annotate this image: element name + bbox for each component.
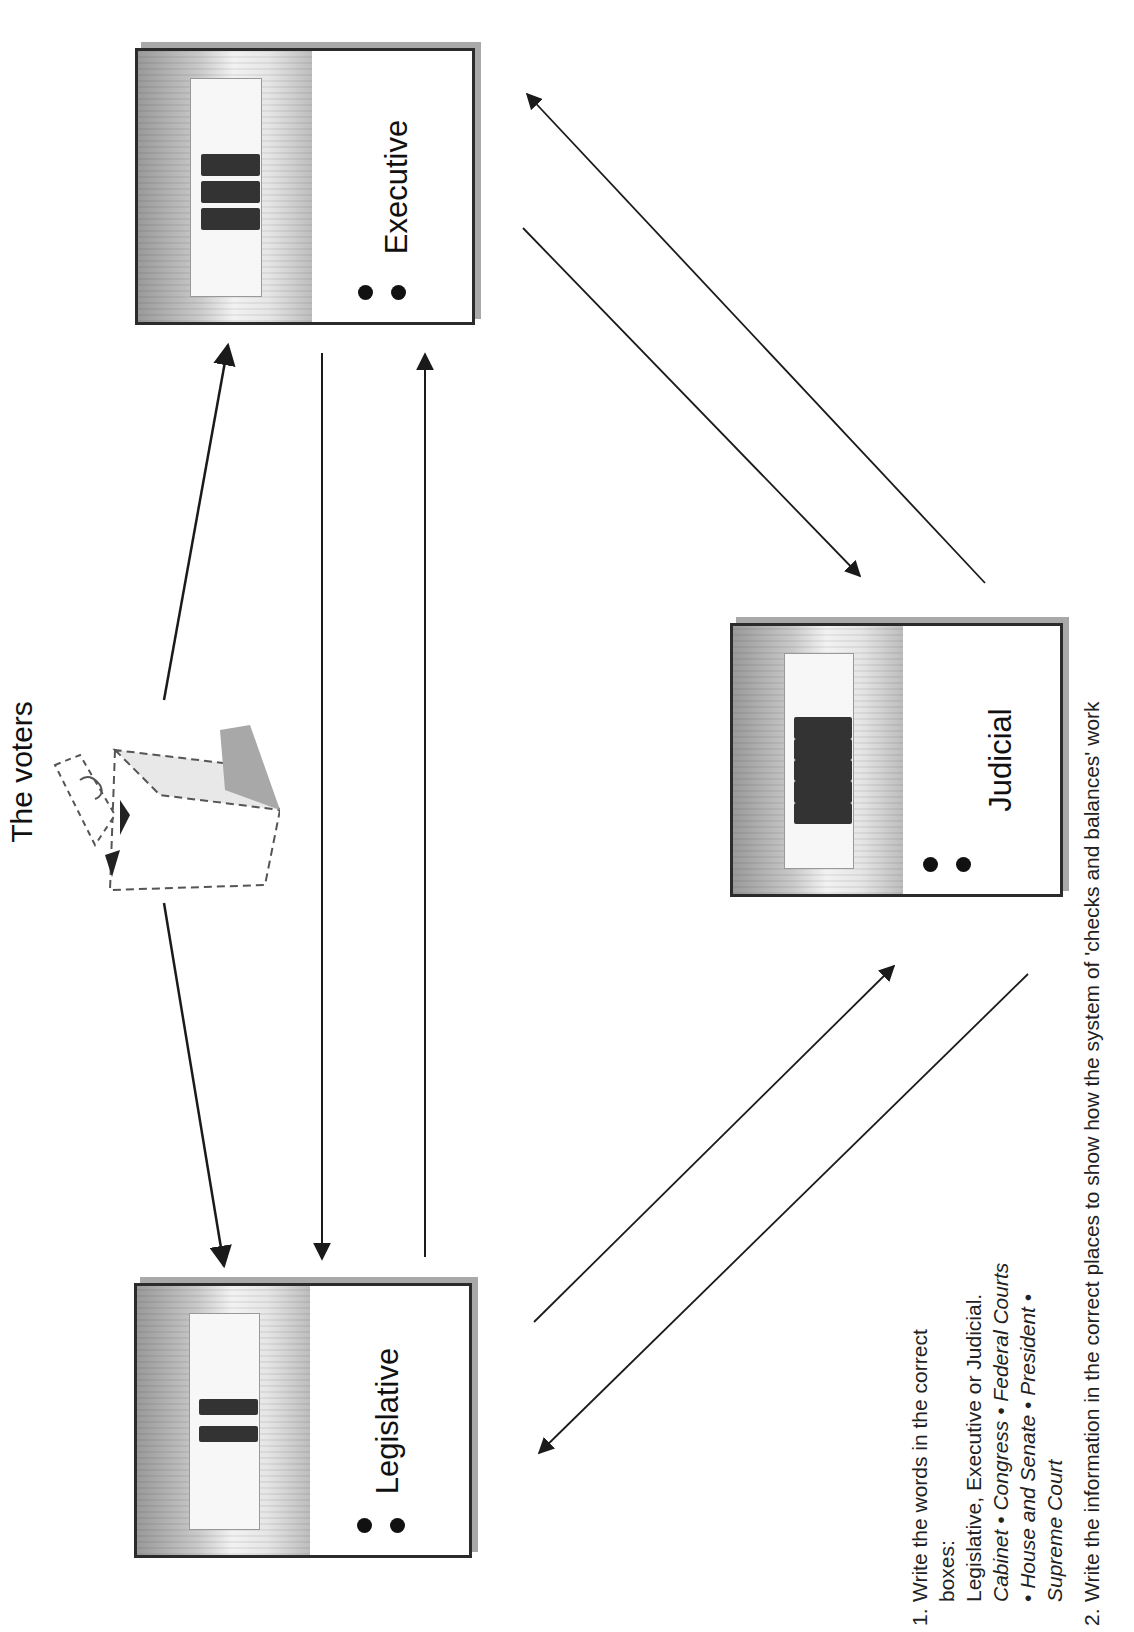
arrow-legislative-to-judicial	[534, 966, 894, 1322]
arrow-voters-to-executive	[164, 345, 228, 700]
branch-label-legislative: Legislative	[370, 1347, 406, 1493]
bullet-icon	[390, 1518, 405, 1533]
arrow-voters-to-legislative	[164, 903, 224, 1266]
capitol-building-image	[137, 1286, 310, 1555]
arrow-judicial-to-executive	[527, 94, 985, 583]
white-house-image	[138, 51, 312, 322]
instruction-number: 1.	[906, 1602, 1068, 1626]
instruction-line: Legislative, Executive or Judicial.	[960, 1262, 987, 1602]
bullet-icon	[357, 1518, 372, 1533]
bullet-icon	[358, 285, 373, 300]
supreme-court-image	[733, 626, 903, 894]
answer-bullets	[358, 285, 406, 300]
branch-label-executive: Executive	[379, 119, 415, 253]
term: House and Senate	[1016, 1415, 1039, 1589]
branch-box-legislative[interactable]: Legislative	[134, 1283, 472, 1558]
term: Supreme Court	[1043, 1460, 1066, 1602]
instruction-line: Write the information in the correct pla…	[1078, 602, 1105, 1602]
instructions: 1. Write the words in the correct boxes:…	[906, 526, 1115, 1626]
term: Cabinet	[989, 1530, 1012, 1602]
term: Congress	[989, 1421, 1012, 1511]
instruction-number: 2.	[1078, 1602, 1105, 1626]
answer-bullets	[357, 1518, 405, 1533]
instruction-2: 2. Write the information in the correct …	[1078, 526, 1105, 1626]
diagram-title: The voters	[5, 701, 39, 843]
arrow-executive-to-judicial	[523, 228, 860, 576]
bullet-icon	[391, 285, 406, 300]
term-list: Cabinet • Congress • Federal Courts • Ho…	[987, 1262, 1068, 1602]
instruction-1: 1. Write the words in the correct boxes:…	[906, 526, 1068, 1626]
term: President	[1016, 1307, 1039, 1396]
instruction-line: Write the words in the correct boxes:	[906, 1262, 960, 1602]
checks-and-balances-worksheet: The voters Executive	[0, 0, 1134, 1632]
branch-box-executive[interactable]: Executive	[135, 48, 475, 325]
ballot-box-icon	[50, 705, 280, 895]
term: Federal Courts	[989, 1263, 1012, 1402]
